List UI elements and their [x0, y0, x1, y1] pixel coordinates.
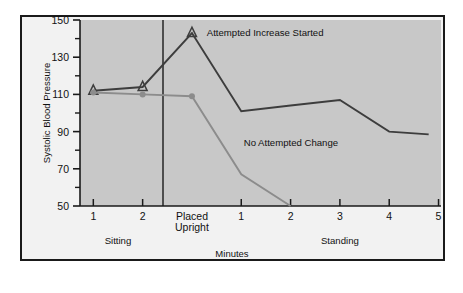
- y-tick-label: 110: [52, 88, 69, 100]
- chart-annotation-label: Attempted Increase Started: [207, 27, 324, 38]
- x-axis-title: Minutes: [215, 248, 249, 259]
- x-tick-label: 4: [386, 210, 392, 222]
- y-tick-label: 50: [57, 200, 69, 212]
- x-tick-label: 2: [140, 210, 146, 222]
- data-point-circle: [140, 91, 146, 97]
- data-point-circle: [189, 93, 195, 99]
- y-tick-label: 90: [57, 126, 69, 138]
- chart-figure: 507090110130150 12PlacedUpright12345 Sit…: [0, 0, 463, 293]
- x-group-label: Standing: [321, 235, 359, 246]
- y-tick-label: 150: [51, 14, 69, 26]
- y-axis-title: Systolic Blood Pressure: [41, 63, 52, 163]
- plot-area-background: [80, 20, 441, 206]
- x-tick-label: 3: [337, 210, 343, 222]
- x-tick-label: 5: [436, 210, 442, 222]
- y-tick-label: 130: [51, 51, 69, 63]
- chart-annotation-label: No Attempted Change: [244, 137, 338, 148]
- x-tick-label: 1: [238, 210, 244, 222]
- data-point-circle: [90, 90, 96, 96]
- x-tick-label: Upright: [175, 221, 209, 233]
- x-axis-tick-labels: 12PlacedUpright12345: [90, 210, 441, 233]
- y-tick-label: 70: [57, 163, 69, 175]
- x-axis-group-labels: SittingStanding: [105, 235, 359, 246]
- x-tick-label: 1: [90, 210, 96, 222]
- x-tick-label: 2: [288, 210, 294, 222]
- chart-canvas: 507090110130150 12PlacedUpright12345 Sit…: [0, 0, 463, 293]
- y-axis-ticks: [73, 20, 80, 206]
- y-axis-tick-labels: 507090110130150: [51, 14, 69, 212]
- x-group-label: Sitting: [105, 235, 132, 246]
